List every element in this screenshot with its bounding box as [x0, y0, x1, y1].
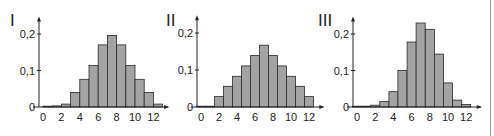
histogram-bar	[224, 86, 233, 107]
histogram-bar	[135, 79, 144, 107]
x-tick-label: 4	[234, 111, 240, 123]
histogram-bar	[287, 76, 296, 107]
histogram-bar	[407, 42, 416, 107]
x-tick-label: 6	[252, 111, 258, 123]
y-tick-label: 0	[343, 101, 349, 113]
histogram-bar	[278, 66, 287, 107]
histogram-bar	[98, 45, 107, 107]
x-axis-arrow-icon	[164, 105, 169, 109]
y-axis-arrow-icon	[37, 17, 41, 22]
histogram-bar	[144, 92, 153, 107]
y-tick-label: 0,2	[20, 28, 35, 40]
right-border-line	[490, 0, 491, 136]
y-axis-arrow-icon	[351, 17, 355, 22]
histogram-bar	[453, 100, 462, 107]
histogram-bar	[398, 71, 407, 108]
x-axis-arrow-icon	[319, 105, 324, 109]
x-tick-label: 10	[129, 111, 141, 123]
x-axis-arrow-icon	[477, 105, 482, 109]
histogram-bar	[260, 45, 269, 107]
histogram-bar	[242, 66, 251, 107]
histogram-panel-3: III00,10,2024681012	[318, 11, 482, 123]
histogram-bar	[425, 29, 434, 107]
histogram-bar	[71, 92, 80, 107]
histogram-bar	[126, 65, 135, 107]
histogram-panel-1: I00,10,2024681012	[10, 11, 169, 123]
histogram-panels-svg: I00,10,2024681012II00,10,2024681012III00…	[0, 0, 494, 136]
y-tick-label: 0,1	[334, 65, 349, 77]
x-tick-label: 10	[442, 111, 454, 123]
y-tick-label: 0,2	[334, 28, 349, 40]
histogram-bar	[380, 102, 389, 108]
x-tick-label: 8	[427, 111, 433, 123]
x-tick-label: 2	[372, 111, 378, 123]
histogram-bar	[443, 83, 452, 107]
x-tick-label: 8	[114, 111, 120, 123]
x-tick-label: 2	[58, 111, 64, 123]
y-tick-label: 0,2	[178, 27, 193, 39]
panel-label: I	[10, 11, 15, 30]
histogram-bar	[107, 36, 116, 108]
y-tick-label: 0,1	[20, 65, 35, 77]
histogram-bar	[233, 76, 242, 107]
x-tick-label: 12	[303, 111, 315, 123]
x-tick-label: 0	[198, 111, 204, 123]
histogram-bar	[389, 92, 398, 107]
x-tick-label: 4	[77, 111, 83, 123]
x-tick-label: 12	[460, 111, 472, 123]
x-tick-label: 4	[390, 111, 396, 123]
y-tick-label: 0	[187, 101, 193, 113]
panel-label: III	[318, 11, 332, 30]
x-tick-label: 8	[270, 111, 276, 123]
histogram-bar	[80, 79, 89, 107]
histogram-bar	[215, 97, 224, 107]
histogram-bar	[117, 45, 126, 107]
histogram-bar	[269, 56, 278, 107]
x-tick-label: 6	[95, 111, 101, 123]
histogram-bar	[434, 54, 443, 107]
histogram-bar	[296, 86, 305, 107]
panel-label: II	[166, 11, 175, 30]
histogram-figure: I00,10,2024681012II00,10,2024681012III00…	[0, 0, 494, 136]
x-tick-label: 10	[285, 111, 297, 123]
x-tick-label: 6	[409, 111, 415, 123]
x-tick-label: 12	[147, 111, 159, 123]
y-tick-label: 0	[29, 101, 35, 113]
y-tick-label: 0,1	[178, 64, 193, 76]
histogram-panel-2: II00,10,2024681012	[166, 11, 324, 123]
histogram-bar	[305, 97, 314, 107]
histogram-bar	[251, 56, 260, 107]
histogram-bar	[416, 23, 425, 107]
y-axis-arrow-icon	[195, 15, 199, 20]
x-tick-label: 0	[40, 111, 46, 123]
x-tick-label: 0	[354, 111, 360, 123]
histogram-bar	[89, 65, 98, 107]
x-tick-label: 2	[216, 111, 222, 123]
